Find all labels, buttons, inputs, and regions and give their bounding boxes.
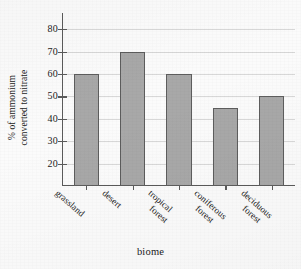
bar — [74, 74, 99, 186]
y-tick-label: 70 — [36, 47, 58, 57]
x-tick-label: deciduousforest — [232, 188, 274, 229]
x-tick-label: grassland — [53, 188, 86, 219]
y-tick-mark — [58, 96, 67, 97]
x-axis-tick-labels: grasslanddeserttropicalforestconiferousf… — [63, 188, 301, 250]
bar-chart-figure: % of ammonium converted to nitrate 20304… — [0, 0, 301, 269]
plot-area — [63, 18, 295, 186]
y-tick-label: 50 — [36, 91, 58, 101]
y-axis-title-line-2: converted to nitrate — [19, 69, 31, 145]
y-tick-mark — [58, 119, 67, 120]
y-tick-mark — [58, 52, 67, 53]
x-tick-label: tropicalforest — [139, 188, 177, 225]
x-tick-label: desert — [100, 188, 124, 211]
x-axis-title: biome — [0, 246, 301, 257]
bar-series — [63, 18, 295, 186]
bar — [120, 52, 145, 186]
y-tick-mark — [58, 74, 67, 75]
x-tick-label-line: grassland — [53, 188, 86, 219]
y-tick-label: 20 — [36, 159, 58, 169]
y-axis-tick-labels: 20304050607080 — [36, 0, 58, 269]
y-tick-label: 40 — [36, 114, 58, 124]
y-axis-title-line-1: % of ammonium — [8, 69, 20, 145]
y-tick-label: 60 — [36, 69, 58, 79]
y-axis-title: % of ammonium converted to nitrate — [2, 34, 36, 180]
y-tick-label: 80 — [36, 24, 58, 34]
x-tick-label-line: desert — [100, 188, 124, 211]
bar — [259, 96, 284, 186]
y-tick-mark — [58, 141, 67, 142]
y-tick-mark — [58, 29, 67, 30]
x-tick-label: coniferousforest — [185, 188, 229, 230]
y-tick-mark — [58, 164, 67, 165]
y-tick-label: 30 — [36, 136, 58, 146]
bar — [166, 74, 191, 186]
bar — [213, 108, 238, 186]
